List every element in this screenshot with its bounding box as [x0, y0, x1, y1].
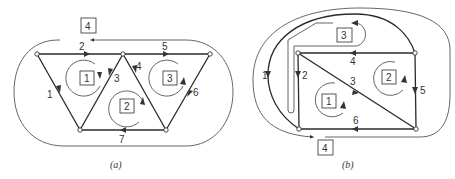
- caption-b: (b): [342, 159, 354, 171]
- node: [296, 51, 300, 55]
- edge-6: [166, 54, 210, 130]
- edge-label: 7: [119, 134, 125, 145]
- mesh-label: 3: [341, 30, 347, 41]
- node: [414, 127, 418, 131]
- edge-label: 6: [193, 87, 199, 98]
- mesh-label: 2: [124, 101, 130, 112]
- edge-2: [298, 53, 299, 129]
- mesh-label: 2: [386, 72, 392, 83]
- figure-a: 2 5 1 3 4 6 7 1 2 3 4 (a): [14, 18, 233, 171]
- edge-label: 1: [47, 89, 53, 100]
- node: [297, 127, 301, 131]
- figure-b: 1 2 3 4 5 6 1 2 3 4 (b): [253, 8, 450, 171]
- node: [164, 128, 168, 132]
- node: [78, 128, 82, 132]
- edge-label: 2: [302, 70, 308, 81]
- node: [413, 51, 417, 55]
- mesh-label: 1: [326, 96, 332, 107]
- caption-a: (a): [110, 159, 122, 171]
- mesh-label: 4: [322, 143, 328, 154]
- mesh-label: 3: [167, 73, 173, 84]
- node: [208, 52, 212, 56]
- edge-label: 5: [420, 85, 426, 96]
- mesh-label: 4: [85, 21, 91, 32]
- edge-1: [37, 54, 80, 130]
- network-graphs-figure: 2 5 1 3 4 6 7 1 2 3 4 (a): [0, 0, 455, 179]
- edge-label: 3: [114, 73, 120, 84]
- edge-label: 4: [136, 61, 142, 72]
- edge-label: 5: [162, 41, 168, 52]
- outer-loop-b: [253, 8, 450, 137]
- edge-4: [123, 54, 166, 130]
- edge-label: 4: [350, 56, 356, 67]
- edge-label: 1: [262, 70, 268, 81]
- node: [35, 52, 39, 56]
- edge-label: 2: [79, 41, 85, 52]
- node: [121, 52, 125, 56]
- mesh-label: 1: [84, 73, 90, 84]
- edge-label: 6: [353, 115, 359, 126]
- edge-3: [80, 54, 123, 130]
- edge-label: 3: [350, 76, 356, 87]
